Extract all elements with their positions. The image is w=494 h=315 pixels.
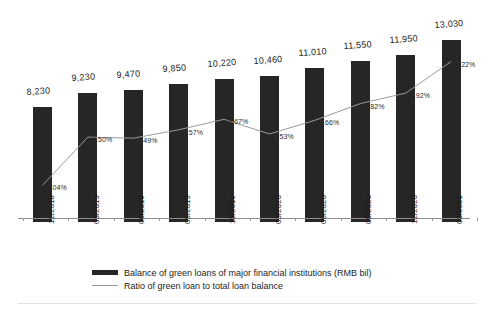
- ratio-value-label: 6.82%: [364, 103, 384, 110]
- bar-value-label: 9,470: [117, 68, 141, 80]
- x-axis-label: 12/2018: [47, 195, 56, 224]
- x-axis-tick: [250, 218, 251, 221]
- chart-legend: Balance of green loans of major financia…: [92, 266, 372, 292]
- plot-area: 8,2309,2309,4709,85010,22010,46011,01011…: [0, 0, 494, 222]
- bar-value-label: 10,460: [253, 54, 282, 66]
- footer-rule: [18, 303, 476, 304]
- x-axis-tick: [114, 218, 115, 221]
- ratio-value-label: 6.57%: [183, 129, 203, 136]
- x-axis-tick: [432, 218, 433, 221]
- legend-bar-swatch-icon: [92, 270, 118, 275]
- x-axis-label: 06/2020: [319, 195, 328, 224]
- x-axis-tick: [477, 218, 478, 221]
- ratio-value-label: 6.66%: [319, 119, 339, 126]
- x-axis-tick: [23, 218, 24, 221]
- ratio-value-label: 6.49%: [137, 137, 157, 144]
- bar-value-label: 9,230: [71, 71, 95, 83]
- chart-figure: 8,2309,2309,4709,85010,22010,46011,01011…: [0, 0, 494, 315]
- bar-value-label: 11,550: [344, 39, 373, 51]
- legend-item-bars: Balance of green loans of major financia…: [92, 266, 372, 279]
- bar-value-label: 13,030: [434, 18, 463, 30]
- x-axis-label: 12/2020: [410, 195, 419, 224]
- x-axis-tick: [386, 218, 387, 221]
- x-axis-tick: [205, 218, 206, 221]
- legend-label-line: Ratio of green loan to total loan balanc…: [124, 281, 283, 291]
- x-axis-label: 03/2020: [274, 195, 283, 224]
- x-axis-tick: [68, 218, 69, 221]
- x-axis-label: 09/2020: [364, 195, 373, 224]
- bar-value-label: 11,950: [389, 33, 418, 45]
- ratio-value-label: 6.50%: [92, 136, 112, 143]
- bar-value-label: 8,230: [26, 85, 50, 97]
- ratio-value-label: 6.67%: [228, 118, 248, 125]
- x-axis-label: 03/2019: [92, 195, 101, 224]
- x-axis-tick: [341, 218, 342, 221]
- x-axis-label: 03/2021: [455, 195, 464, 224]
- ratio-value-label: 7.22%: [455, 61, 475, 68]
- x-axis-tick: [295, 218, 296, 221]
- x-axis-line: [18, 218, 470, 219]
- bar-value-label: 11,010: [298, 46, 327, 58]
- ratio-value-label: 6.92%: [410, 92, 430, 99]
- x-axis-label: 12/2019: [228, 195, 237, 224]
- x-axis-label: 09/2019: [183, 195, 192, 224]
- legend-item-line: Ratio of green loan to total loan balanc…: [92, 279, 372, 292]
- ratio-value-label: 6.04%: [47, 184, 67, 191]
- bar-value-label: 9,850: [162, 63, 186, 75]
- ratio-value-label: 6.53%: [274, 133, 294, 140]
- legend-label-bars: Balance of green loans of major financia…: [124, 268, 372, 278]
- line-series: [0, 0, 494, 222]
- x-axis-tick: [159, 218, 160, 221]
- legend-line-swatch-icon: [92, 285, 118, 286]
- x-axis-label: 06/2019: [137, 195, 146, 224]
